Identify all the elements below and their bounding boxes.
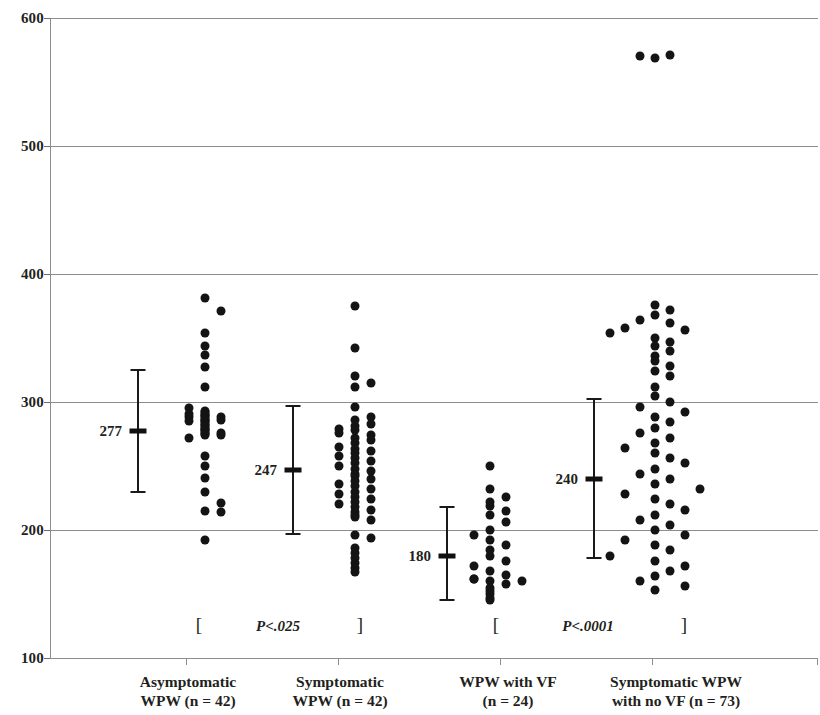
data-point [636, 515, 645, 524]
group-label-line1: Symptomatic WPW [610, 672, 742, 691]
data-point [351, 513, 360, 522]
gridline-500 [50, 146, 818, 147]
data-point [651, 341, 660, 350]
error-bar-cap-lower [587, 557, 602, 559]
mean-value-label: 277 [100, 423, 130, 440]
data-point [651, 479, 660, 488]
data-point [367, 378, 376, 387]
data-point [666, 566, 675, 575]
data-point [666, 433, 675, 442]
data-point [217, 431, 226, 440]
p-value-text: P<.025 [256, 618, 300, 634]
data-point [502, 570, 511, 579]
group-label-line1: Symptomatic [292, 672, 387, 691]
data-point [201, 451, 210, 460]
data-point [666, 546, 675, 555]
data-point [486, 536, 495, 545]
data-point [335, 428, 344, 437]
data-point [367, 485, 376, 494]
data-point [651, 367, 660, 376]
y-tick-label: 200 [21, 522, 44, 539]
data-point [367, 505, 376, 514]
data-point [201, 363, 210, 372]
data-point [621, 490, 630, 499]
data-point [666, 520, 675, 529]
data-point [470, 574, 479, 583]
data-point [651, 438, 660, 447]
data-point [201, 350, 210, 359]
data-point [606, 551, 615, 560]
group-label-line2: (n = 24) [459, 691, 557, 710]
p-bracket-left-1: [ [196, 614, 202, 636]
data-point [636, 403, 645, 412]
group-label-line2: WPW (n = 42) [140, 691, 236, 710]
data-point [651, 53, 660, 62]
gridline-400 [50, 274, 818, 275]
data-point [217, 415, 226, 424]
data-point [351, 568, 360, 577]
data-point [486, 566, 495, 575]
data-point [651, 586, 660, 595]
data-point [201, 341, 210, 350]
data-point [201, 294, 210, 303]
data-point [666, 372, 675, 381]
data-point [696, 485, 705, 494]
data-point [486, 551, 495, 560]
data-point [636, 316, 645, 325]
data-point [651, 541, 660, 550]
data-point [470, 561, 479, 570]
data-point [681, 505, 690, 514]
group-label-line1: WPW with VF [459, 672, 557, 691]
x-tickmark-4 [652, 659, 653, 665]
data-point [367, 533, 376, 542]
data-point [502, 518, 511, 527]
group-label-line2: WPW (n = 42) [292, 691, 387, 710]
error-bar-cap-upper [440, 506, 455, 508]
data-point [335, 442, 344, 451]
data-point [201, 487, 210, 496]
data-point [335, 500, 344, 509]
data-point [681, 459, 690, 468]
error-bar-cap-lower [440, 599, 455, 601]
data-point [201, 328, 210, 337]
data-point [666, 318, 675, 327]
data-point [651, 300, 660, 309]
error-bar-cap-lower [131, 491, 146, 493]
x-tickmark-5 [817, 659, 818, 665]
data-point [651, 464, 660, 473]
x-tickmark-2 [338, 659, 339, 665]
data-point [201, 506, 210, 515]
data-point [217, 499, 226, 508]
data-point [651, 310, 660, 319]
p-value-text: P<.0001 [562, 618, 613, 634]
y-axis-line [50, 18, 51, 659]
data-point [666, 500, 675, 509]
mean-value-label: 180 [409, 547, 439, 564]
gridline-300 [50, 402, 818, 403]
data-point [486, 510, 495, 519]
data-point [486, 596, 495, 605]
data-point [502, 541, 511, 550]
x-axis-group-label-1: Asymptomatic WPW (n = 42) [140, 672, 236, 710]
p-bracket-right-1: ] [357, 614, 363, 636]
data-point [486, 526, 495, 535]
data-point [666, 346, 675, 355]
data-point [367, 419, 376, 428]
error-bar-mean-marker [285, 467, 302, 472]
y-tick-label: 400 [21, 266, 44, 283]
data-point [651, 382, 660, 391]
data-point [502, 492, 511, 501]
y-tick-label: 600 [21, 10, 44, 27]
data-point [201, 473, 210, 482]
x-tickmark-1 [186, 659, 187, 665]
data-point [666, 454, 675, 463]
data-point [367, 515, 376, 524]
data-point [201, 462, 210, 471]
data-point [335, 490, 344, 499]
data-point [666, 305, 675, 314]
data-point [666, 474, 675, 483]
data-point [681, 531, 690, 540]
data-point [681, 582, 690, 591]
data-point [636, 469, 645, 478]
data-point [351, 302, 360, 311]
